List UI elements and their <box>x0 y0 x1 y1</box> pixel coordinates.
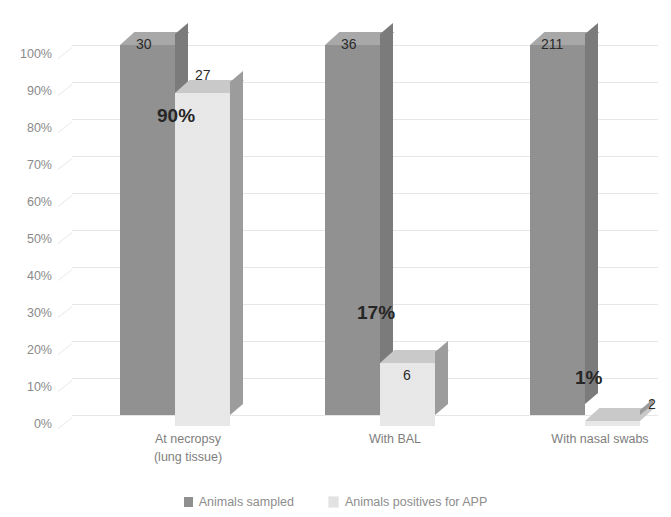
legend-swatch-icon <box>184 497 193 507</box>
x-axis-label-necropsy: At necropsy (lung tissue) <box>118 430 258 466</box>
bar-side-face <box>585 23 598 404</box>
y-axis-tick-100: 100% <box>6 48 52 61</box>
x-axis-label-nasal: With nasal swabs <box>525 430 671 448</box>
chart-legend: Animals sampled Animals positives for AP… <box>0 496 671 509</box>
bar-animals-sampled-necropsy <box>120 45 175 415</box>
bar-animals-sampled-bal <box>325 45 380 415</box>
plot-area: 30 27 36 6 211 2 90% 17% 1% <box>58 10 658 420</box>
value-label-positive-bal: 6 <box>403 368 411 382</box>
depth-diagonal-60 <box>58 195 73 207</box>
depth-diagonal-30 <box>58 306 73 318</box>
y-axis-tick-40: 40% <box>6 270 52 283</box>
legend-label-animals-positives: Animals positives for APP <box>345 496 487 509</box>
y-axis-tick-60: 60% <box>6 196 52 209</box>
y-axis-tick-90: 90% <box>6 85 52 98</box>
legend-item-animals-positives[interactable]: Animals positives for APP <box>328 496 487 509</box>
y-axis-tick-10: 10% <box>6 381 52 394</box>
chart-root: 100% 90% 80% 70% 60% 50% 40% 30% 20% 10%… <box>0 0 671 517</box>
bar-side-face <box>435 341 448 415</box>
depth-diagonal-10 <box>58 380 73 392</box>
bar-side-face <box>230 71 243 415</box>
value-label-positive-necropsy: 27 <box>195 68 211 82</box>
value-label-sampled-bal: 36 <box>341 37 357 51</box>
depth-diagonal-40 <box>58 269 73 281</box>
depth-diagonal-80 <box>58 121 73 133</box>
y-axis: 100% 90% 80% 70% 60% 50% 40% 30% 20% 10%… <box>0 10 52 420</box>
value-label-sampled-necropsy: 30 <box>136 37 152 51</box>
legend-swatch-icon <box>328 496 339 508</box>
depth-diagonal-90 <box>58 84 73 96</box>
bar-front-face <box>325 45 380 415</box>
percent-label-bal: 17% <box>357 303 395 322</box>
depth-diagonal-20 <box>58 343 73 355</box>
bar-side-face <box>380 23 393 404</box>
percent-label-necropsy: 90% <box>157 106 195 125</box>
legend-label-animals-sampled: Animals sampled <box>199 496 294 509</box>
bar-animals-sampled-nasal <box>530 45 585 415</box>
value-label-sampled-nasal: 211 <box>541 37 563 51</box>
bar-front-face <box>530 45 585 415</box>
percent-label-nasal: 1% <box>575 368 602 387</box>
x-axis-label-bal: With BAL <box>325 430 465 448</box>
bar-front-face <box>120 45 175 415</box>
gridline-0 <box>72 415 658 416</box>
depth-diagonal-70 <box>58 158 73 170</box>
bar-front-face <box>585 421 640 426</box>
y-axis-tick-20: 20% <box>6 344 52 357</box>
y-axis-tick-30: 30% <box>6 307 52 320</box>
value-label-positive-nasal: 2 <box>648 397 656 411</box>
legend-item-animals-sampled[interactable]: Animals sampled <box>184 496 294 509</box>
bar-animals-positive-nasal <box>585 421 640 426</box>
bar-front-face <box>175 93 230 426</box>
depth-diagonal-50 <box>58 232 73 244</box>
y-axis-tick-80: 80% <box>6 122 52 135</box>
bar-animals-positive-necropsy <box>175 93 230 426</box>
y-axis-tick-50: 50% <box>6 233 52 246</box>
depth-diagonal-0 <box>58 417 73 429</box>
depth-diagonal-top <box>58 47 73 59</box>
y-axis-tick-0: 0% <box>6 418 52 431</box>
y-axis-tick-70: 70% <box>6 159 52 172</box>
